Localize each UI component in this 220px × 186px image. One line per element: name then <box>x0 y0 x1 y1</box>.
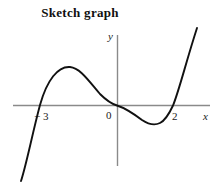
cubic-curve <box>21 28 197 181</box>
sketch-graph-figure: Sketch graph y x − 3 0 2 <box>0 0 220 186</box>
x-tick-label-minus-3: − 3 <box>34 110 48 122</box>
x-tick-label-0: 0 <box>106 109 112 121</box>
x-axis-label: x <box>203 110 208 122</box>
x-tick-label-2: 2 <box>172 110 178 122</box>
y-axis-label: y <box>108 30 113 42</box>
graph-plot-area <box>0 0 220 186</box>
